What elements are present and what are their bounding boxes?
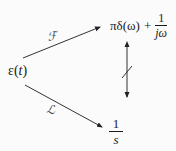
close-paren: ) xyxy=(22,63,27,78)
fourier-term-delta: πδ(ω) xyxy=(110,19,140,32)
laplace-operator-label: ℒ xyxy=(46,103,57,116)
laplace-fraction-numerator: 1 xyxy=(112,117,121,131)
fourier-arrow xyxy=(23,27,100,58)
laplace-arrow xyxy=(25,85,102,127)
laplace-result-node: 1 s xyxy=(109,117,123,146)
laplace-fraction-denominator: s xyxy=(113,132,118,146)
diagram-canvas: ε(t) ℱ ℒ πδ(ω) + 1 jω 1 s xyxy=(0,0,176,151)
fourier-fraction: 1 jω xyxy=(155,12,167,39)
plus-sign: + xyxy=(144,19,151,32)
step-function-node: ε(t) xyxy=(8,64,27,78)
laplace-fraction: 1 s xyxy=(109,117,123,146)
fourier-fraction-denominator: jω xyxy=(155,26,167,39)
fourier-fraction-numerator: 1 xyxy=(157,12,165,25)
fourier-result-node: πδ(ω) + 1 jω xyxy=(110,13,167,37)
fourier-operator-label: ℱ xyxy=(46,29,57,42)
